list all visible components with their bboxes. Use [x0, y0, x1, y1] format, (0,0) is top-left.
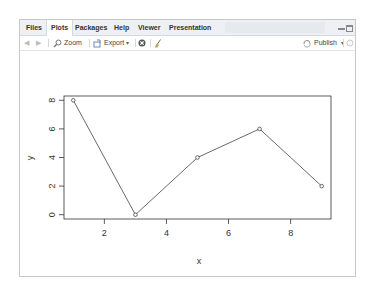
line-chart: 246802468 x y — [20, 51, 355, 277]
dropdown-caret-icon: ▾ — [126, 36, 129, 50]
export-button[interactable]: Export ▾ — [93, 36, 129, 50]
clear-plots-button[interactable] — [154, 36, 162, 50]
y-tick-label: 8 — [47, 98, 57, 103]
data-point-marker — [72, 98, 76, 102]
x-tick-label: 8 — [288, 228, 293, 238]
y-tick-label: 6 — [47, 126, 57, 131]
toolbar-divider — [343, 39, 344, 47]
tab-presentation[interactable]: Presentation — [165, 20, 215, 35]
data-series — [72, 98, 324, 216]
plots-toolbar: ◀ ▶ Zoom Export ▾ — [20, 36, 355, 51]
tab-viewer[interactable]: Viewer — [134, 20, 164, 35]
data-point-marker — [196, 156, 200, 160]
data-point-marker — [320, 184, 324, 188]
toolbar-divider — [48, 39, 49, 47]
remove-plot-icon — [138, 39, 146, 47]
data-point-marker — [134, 213, 138, 217]
export-icon — [93, 39, 102, 48]
maximize-icon[interactable] — [346, 25, 353, 32]
remove-plot-button[interactable] — [138, 36, 146, 50]
y-tick-label: 2 — [47, 184, 57, 189]
publish-icon — [302, 39, 312, 48]
tab-packages[interactable]: Packages — [71, 20, 111, 35]
broom-icon — [154, 39, 162, 48]
pane-tabbar: Files Plots Packages Help Viewer Present… — [20, 20, 355, 36]
publish-button[interactable]: Publish ▾ — [302, 36, 344, 50]
y-tick-label: 4 — [47, 155, 57, 160]
x-axis-label: x — [197, 256, 202, 266]
data-point-marker — [258, 127, 262, 131]
tab-help[interactable]: Help — [110, 20, 133, 35]
magnifier-icon — [53, 39, 62, 48]
window-controls — [338, 22, 353, 32]
arrow-right-icon: ▶ — [36, 36, 41, 50]
toolbar-divider — [150, 39, 151, 47]
tab-plots[interactable]: Plots — [46, 20, 73, 36]
refresh-icon — [346, 39, 354, 47]
y-axis-label: y — [25, 155, 35, 160]
forward-button[interactable]: ▶ — [36, 36, 41, 50]
tabbar-filler — [225, 22, 325, 33]
toolbar-divider — [89, 39, 90, 47]
toolbar-divider — [135, 39, 136, 47]
publish-label: Publish — [314, 36, 337, 50]
y-tick-label: 0 — [47, 212, 57, 217]
plot-area: 246802468 x y — [20, 51, 355, 276]
zoom-label: Zoom — [64, 36, 82, 50]
x-tick-label: 6 — [226, 228, 231, 238]
tab-files[interactable]: Files — [22, 20, 46, 35]
arrow-left-icon: ◀ — [24, 36, 29, 50]
zoom-button[interactable]: Zoom — [53, 36, 82, 50]
refresh-button[interactable] — [346, 36, 354, 50]
x-tick-label: 2 — [102, 228, 107, 238]
back-button[interactable]: ◀ — [24, 36, 29, 50]
plots-pane: Files Plots Packages Help Viewer Present… — [19, 19, 356, 277]
axes: 246802468 — [47, 98, 293, 238]
minimize-icon[interactable] — [338, 28, 345, 30]
export-label: Export — [104, 36, 124, 50]
x-tick-label: 4 — [164, 228, 169, 238]
